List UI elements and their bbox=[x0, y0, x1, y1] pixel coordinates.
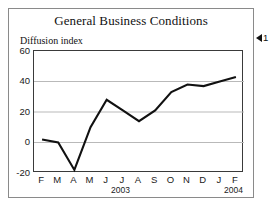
y-tick-label: 40 bbox=[4, 76, 30, 85]
y-tick-label: -20 bbox=[4, 168, 30, 177]
data-series-line bbox=[42, 77, 236, 170]
side-annotation: 1 bbox=[256, 33, 268, 42]
year-label-2003: 2003 bbox=[111, 185, 130, 196]
x-axis-year-labels: 2003 2004 bbox=[33, 185, 243, 197]
y-tick-label: 0 bbox=[4, 137, 30, 146]
y-axis-tick-labels: 6040200-20 bbox=[3, 50, 30, 172]
year-label-2004: 2004 bbox=[224, 185, 243, 196]
annotation-number: 1 bbox=[263, 33, 268, 42]
plot-area bbox=[33, 50, 243, 172]
data-line-svg bbox=[34, 51, 244, 173]
left-triangle-icon bbox=[256, 34, 262, 42]
y-tick-label: 60 bbox=[4, 46, 30, 55]
page-title: General Business Conditions bbox=[8, 13, 254, 29]
y-tick-label: 20 bbox=[4, 107, 30, 116]
chart-figure: General Business Conditions Diffusion in… bbox=[0, 0, 271, 213]
